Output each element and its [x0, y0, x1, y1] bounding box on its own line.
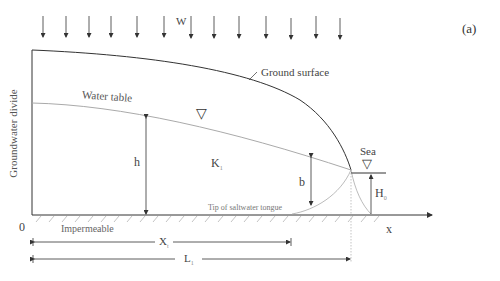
impermeable-hatching [36, 216, 379, 222]
length-label: L1 [184, 253, 194, 266]
conductivity-label: K1 [211, 157, 223, 171]
water-table-line [32, 103, 351, 170]
water-table-marker-icon: ▽ [196, 107, 207, 121]
groundwater-divide-label: Groundwater divide [8, 79, 19, 189]
interface-depth-label: b [299, 176, 305, 188]
ground-surface-label: Ground surface [261, 67, 329, 78]
tip-distance-label: Xt [159, 236, 169, 249]
seaward-interface [351, 170, 371, 214]
origin-label: 0 [19, 221, 25, 233]
sea-head-label: H0 [375, 187, 387, 201]
recharge-label: W [176, 16, 186, 27]
x-axis-label: x [386, 223, 392, 235]
tip-label: Tip of saltwater tongue [208, 204, 282, 212]
impermeable-label: Impermeable [61, 224, 114, 234]
groundwater-diagram [0, 0, 500, 281]
recharge-arrows [43, 16, 340, 39]
ground-surface-pointer [249, 72, 257, 80]
head-label: h [134, 156, 140, 168]
sea-marker-icon: ▽ [362, 157, 372, 170]
panel-label: (a) [462, 22, 476, 35]
